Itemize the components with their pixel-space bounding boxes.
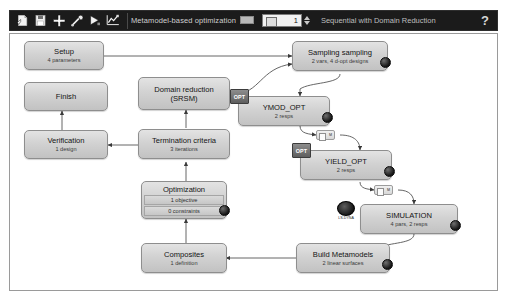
lsopt-process-window: Metamodel-based optimization 1 Sequentia… xyxy=(0,0,506,302)
node-build-metamodels[interactable]: Build Metamodels 2 linear surfaces xyxy=(296,243,390,273)
toolbar-icon-group xyxy=(10,13,124,28)
save-icon[interactable] xyxy=(33,13,48,28)
task-chip-icon xyxy=(240,16,254,24)
node-composites[interactable]: Composites 1 definition xyxy=(141,243,227,273)
new-file-icon[interactable] xyxy=(15,13,30,28)
node-title: YMOD_OPT xyxy=(263,103,306,112)
run-icon[interactable] xyxy=(87,13,102,28)
node-optimization[interactable]: Optimization 1 objective 0 constraints xyxy=(141,181,227,219)
ls-dyna-label: LS-DYNA xyxy=(338,216,354,220)
connector-label: M xyxy=(387,188,390,192)
iteration-arrows[interactable] xyxy=(304,16,310,25)
node-title: Sampling sampling xyxy=(308,48,372,57)
tools-icon[interactable] xyxy=(69,13,84,28)
node-subtitle: 2 linear surfaces xyxy=(322,260,363,267)
node-title: Optimization xyxy=(163,185,205,194)
node-ymod-opt[interactable]: OPT YMOD_OPT 2 resps xyxy=(238,96,330,126)
node-subtitle: 2 vars, 4 d-opt designs xyxy=(312,58,369,65)
node-title: Termination criteria xyxy=(152,136,216,145)
node-subtitle: 2 resps xyxy=(337,167,355,174)
iteration-stepper[interactable]: 1 xyxy=(262,14,310,27)
chart-icon[interactable] xyxy=(105,13,120,28)
task-label: Metamodel-based optimization xyxy=(131,16,236,25)
node-title: YIELD_OPT xyxy=(325,157,367,166)
node-status-dot[interactable] xyxy=(322,112,333,123)
connector-yield-sim[interactable]: M xyxy=(374,185,393,195)
node-subtitle: 1 design xyxy=(55,146,76,153)
iteration-value: 1 xyxy=(294,16,298,25)
node-status-dot[interactable] xyxy=(382,259,393,270)
strategy-label: Sequential with Domain Reduction xyxy=(321,16,436,25)
node-title: Setup xyxy=(54,47,74,56)
connection-lines xyxy=(10,34,497,290)
node-title: Build Metamodels xyxy=(313,250,373,259)
opt-badge-icon: OPT xyxy=(230,89,249,104)
node-title: Composites xyxy=(164,250,204,259)
toolbar-divider xyxy=(127,13,128,29)
node-status-dot[interactable] xyxy=(450,220,461,231)
node-constraint-row[interactable]: 0 constraints xyxy=(144,206,224,216)
connector-ymod-yield[interactable]: M xyxy=(316,130,335,140)
node-sampling[interactable]: Sampling sampling 2 vars, 4 d-opt design… xyxy=(292,41,388,71)
node-subtitle: 3 iterations xyxy=(170,146,197,153)
node-title: Verification xyxy=(47,136,84,145)
node-subtitle: 4 pars, 2 resps xyxy=(391,221,428,228)
chevron-up-icon[interactable] xyxy=(304,16,310,20)
node-status-dot[interactable] xyxy=(219,205,230,216)
node-setup[interactable]: Setup 4 parameters xyxy=(24,41,104,70)
connector-label: M xyxy=(329,133,332,137)
node-simulation[interactable]: LS-DYNA SIMULATION 4 pars, 2 resps xyxy=(360,204,458,234)
node-title: Finish xyxy=(56,92,76,101)
node-title: SIMULATION xyxy=(386,211,432,220)
chevron-down-icon[interactable] xyxy=(304,21,310,25)
node-termination-criteria[interactable]: Termination criteria 3 iterations xyxy=(138,129,230,159)
node-status-dot[interactable] xyxy=(380,57,391,68)
node-domain-reduction[interactable]: Domain reduction (SRSM) xyxy=(138,77,230,110)
iteration-icon xyxy=(266,17,277,27)
node-finish[interactable]: Finish xyxy=(24,82,108,111)
node-subtitle: 4 parameters xyxy=(48,57,81,64)
node-title: Domain reduction xyxy=(154,85,214,94)
ls-dyna-icon: LS-DYNA xyxy=(335,201,357,223)
opt-badge-icon: OPT xyxy=(292,143,311,158)
iteration-input[interactable]: 1 xyxy=(262,14,302,27)
node-subtitle: (SRSM) xyxy=(171,94,198,103)
ls-dyna-glyph xyxy=(337,201,355,216)
node-yield-opt[interactable]: OPT YIELD_OPT 2 resps xyxy=(300,150,392,180)
node-verification[interactable]: Verification 1 design xyxy=(24,130,108,159)
node-subtitle: 1 definition xyxy=(170,260,197,267)
add-icon[interactable] xyxy=(51,13,66,28)
help-icon[interactable]: ? xyxy=(481,13,489,28)
node-status-dot[interactable] xyxy=(384,166,395,177)
main-toolbar: Metamodel-based optimization 1 Sequentia… xyxy=(9,10,498,31)
node-objective-row[interactable]: 1 objective xyxy=(144,195,224,205)
node-subtitle: 2 resps xyxy=(275,113,293,120)
process-flow-canvas[interactable]: Setup 4 parameters Sampling sampling 2 v… xyxy=(9,33,498,291)
